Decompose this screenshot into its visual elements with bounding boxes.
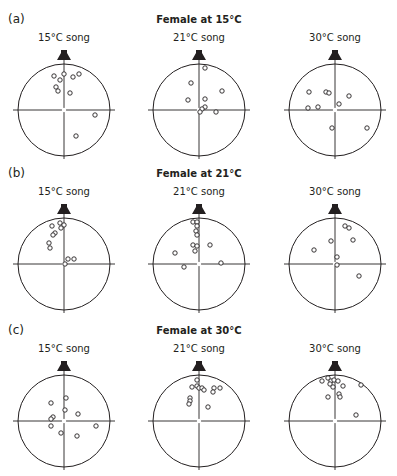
panel-label: (b) — [8, 166, 25, 180]
female-position-marker — [71, 75, 75, 79]
panel-label: (c) — [8, 323, 24, 337]
female-position-marker — [219, 261, 223, 265]
female-position-marker — [203, 97, 207, 101]
female-position-marker — [202, 388, 206, 392]
female-position-marker — [359, 383, 363, 387]
arena-plot: 21°C song — [148, 186, 250, 313]
song-label: 21°C song — [173, 186, 225, 197]
female-position-marker — [337, 102, 341, 106]
female-position-marker — [68, 91, 72, 95]
female-position-marker — [64, 396, 68, 400]
female-position-marker — [195, 233, 199, 237]
female-position-marker — [63, 408, 67, 412]
arena-plot: 21°C song — [148, 32, 250, 159]
centre-release-point — [197, 262, 201, 266]
female-position-marker — [312, 248, 316, 252]
arena-plot: 21°C song — [148, 343, 250, 470]
female-position-marker — [93, 113, 97, 117]
female-position-marker — [66, 257, 70, 261]
female-position-marker — [203, 66, 207, 70]
female-position-marker — [357, 274, 361, 278]
female-position-marker — [76, 412, 80, 416]
panel-b: (b)Female at 21°C15°C song21°C song30°C … — [8, 166, 386, 313]
female-position-marker — [316, 105, 320, 109]
female-position-marker — [208, 243, 212, 247]
female-position-marker — [74, 134, 78, 138]
female-position-marker — [198, 110, 202, 114]
song-label: 30°C song — [309, 343, 361, 354]
female-position-marker — [173, 251, 177, 255]
song-label: 15°C song — [38, 186, 90, 197]
female-position-marker — [50, 224, 54, 228]
panels: (a)Female at 15°C15°C song21°C song30°C … — [8, 12, 386, 470]
centre-release-point — [333, 108, 337, 112]
female-position-marker — [48, 246, 52, 250]
female-position-marker — [195, 244, 199, 248]
figure-canvas: (a)Female at 15°C15°C song21°C song30°C … — [0, 0, 397, 476]
arena-plot: 15°C song — [13, 32, 115, 159]
centre-release-point — [62, 419, 66, 423]
song-label: 15°C song — [38, 343, 90, 354]
female-position-marker — [327, 91, 331, 95]
female-position-marker — [220, 89, 224, 93]
female-position-marker — [49, 401, 53, 405]
arena-plot: 30°C song — [284, 343, 386, 470]
female-position-marker — [195, 224, 199, 228]
female-position-marker — [347, 226, 351, 230]
female-position-marker — [52, 74, 56, 78]
female-position-marker — [72, 257, 76, 261]
female-position-marker — [365, 126, 369, 130]
panel-title: Female at 30°C — [156, 325, 241, 336]
female-position-marker — [330, 126, 334, 130]
female-position-marker — [338, 395, 342, 399]
female-position-marker — [187, 402, 191, 406]
arena-plot: 30°C song — [284, 32, 386, 159]
female-position-marker — [335, 263, 339, 267]
panel-title: Female at 21°C — [156, 168, 241, 179]
female-position-marker — [326, 395, 330, 399]
female-position-marker — [347, 94, 351, 98]
panel-c: (c)Female at 30°C15°C song21°C song30°C … — [8, 323, 386, 470]
song-label: 21°C song — [173, 343, 225, 354]
female-position-marker — [182, 265, 186, 269]
female-position-marker — [354, 413, 358, 417]
female-position-marker — [320, 379, 324, 383]
female-position-marker — [47, 241, 51, 245]
panel-label: (a) — [8, 12, 25, 26]
female-position-marker — [186, 98, 190, 102]
female-position-marker — [56, 89, 60, 93]
female-position-marker — [49, 417, 53, 421]
female-position-marker — [58, 78, 62, 82]
female-position-marker — [307, 90, 311, 94]
arena-plot: 15°C song — [13, 343, 115, 470]
female-position-marker — [63, 262, 67, 266]
centre-release-point — [197, 419, 201, 423]
female-position-marker — [75, 434, 79, 438]
arena-plot: 30°C song — [284, 186, 386, 313]
female-position-marker — [341, 384, 345, 388]
female-position-marker — [77, 72, 81, 76]
female-position-marker — [94, 424, 98, 428]
female-position-marker — [336, 379, 340, 383]
female-position-marker — [211, 390, 215, 394]
song-label: 30°C song — [309, 32, 361, 43]
female-position-marker — [59, 431, 63, 435]
female-position-marker — [214, 110, 218, 114]
female-position-marker — [62, 72, 66, 76]
female-position-marker — [59, 226, 63, 230]
centre-release-point — [333, 419, 337, 423]
song-label: 15°C song — [38, 32, 90, 43]
female-position-marker — [306, 106, 310, 110]
female-position-marker — [193, 249, 197, 253]
female-position-marker — [189, 81, 193, 85]
panel-a: (a)Female at 15°C15°C song21°C song30°C … — [8, 12, 386, 159]
female-position-marker — [190, 385, 194, 389]
centre-release-point — [62, 108, 66, 112]
panel-title: Female at 15°C — [156, 14, 241, 25]
female-position-marker — [351, 238, 355, 242]
female-position-marker — [51, 233, 55, 237]
female-position-marker — [49, 424, 53, 428]
song-label: 30°C song — [309, 186, 361, 197]
song-label: 21°C song — [173, 32, 225, 43]
female-position-marker — [331, 385, 335, 389]
